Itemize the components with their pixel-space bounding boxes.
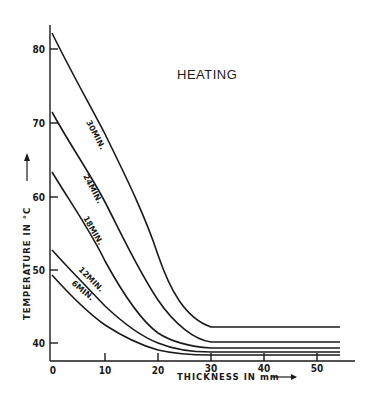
curve-label-24min: 24MIN. <box>81 173 104 205</box>
curve-label-30min: 30MIN. <box>84 119 107 151</box>
x-tick-label: 0 <box>50 365 56 376</box>
curve-label-18min: 18MIN. <box>81 215 105 247</box>
x-axis-title: THICKNESS IN mm <box>177 372 280 382</box>
y-tick-label: 50 <box>32 265 45 276</box>
y-tick-label: 40 <box>32 338 45 349</box>
x-tick-label: 50 <box>311 363 324 374</box>
chart: 40 50 60 70 80 0 10 20 30 40 50 HEATING … <box>0 0 391 401</box>
y-axis-arrow-icon <box>24 153 30 181</box>
y-ticks: 40 50 60 70 80 <box>32 44 58 349</box>
y-axis-title: TEMPERATURE IN °C <box>22 207 32 320</box>
x-tick-label: 20 <box>152 365 165 376</box>
x-tick-label: 10 <box>99 365 112 376</box>
y-tick-label: 60 <box>32 192 45 203</box>
chart-title: HEATING <box>177 67 237 82</box>
y-tick-label: 80 <box>32 44 45 55</box>
y-tick-label: 70 <box>32 118 45 129</box>
